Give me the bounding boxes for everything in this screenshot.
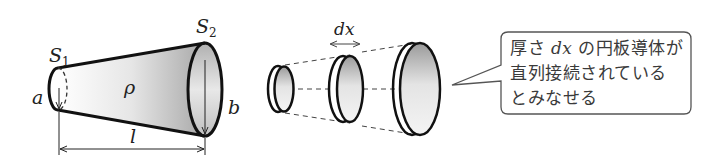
label-b: b (228, 96, 240, 118)
label-s1: S1 (49, 44, 70, 69)
callout-line-3: とみなせる (510, 86, 690, 111)
label-rho: ρ (123, 76, 136, 98)
truncated-cone-conductor (49, 43, 222, 136)
dx-thickness-arrow (330, 41, 360, 47)
callout-text: 厚さ dx の円板導体が 直列接続されている とみなせる (510, 36, 690, 111)
disc-large (393, 43, 440, 135)
callout-line-1: 厚さ dx の円板導体が (510, 36, 690, 61)
disc-small (268, 66, 294, 112)
label-a: a (32, 86, 43, 108)
label-l: l (130, 125, 136, 147)
callout-line-2: 直列接続されている (510, 61, 690, 86)
disc-middle (329, 56, 363, 122)
label-s2: S2 (196, 15, 217, 40)
label-dx: dx (334, 19, 355, 39)
